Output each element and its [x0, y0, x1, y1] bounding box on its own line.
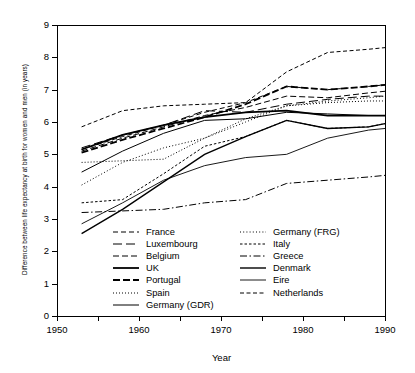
legend-line-swatch-icon [240, 275, 266, 285]
legend-item-label: Portugal [146, 275, 181, 285]
legend-line-swatch-icon [113, 239, 139, 249]
legend-item-uk[interactable]: UK [113, 262, 214, 274]
legend-item-belgium[interactable]: Belgium [113, 250, 214, 262]
legend-item-luxembourg[interactable]: Luxembourg [113, 238, 214, 250]
legend-item-italy[interactable]: Italy [240, 238, 340, 250]
legend-item-spain[interactable]: Spain [113, 286, 214, 298]
legend-item-germany-frg[interactable]: Germany (FRG) [240, 226, 340, 238]
legend-item-label: UK [146, 263, 159, 273]
legend-item-label: Germany (GDR) [146, 300, 214, 310]
legend-item-label: Spain [146, 288, 170, 298]
legend-line-swatch-icon [240, 288, 266, 298]
legend-line-swatch-icon [240, 239, 266, 249]
legend-item-denmark[interactable]: Denmark [240, 262, 340, 274]
series-line-eire [82, 128, 385, 223]
legend-item-label: Italy [273, 239, 290, 249]
legend-line-swatch-icon [113, 227, 139, 237]
legend-item-greece[interactable]: Greece [240, 250, 340, 262]
legend-item-label: Greece [273, 251, 304, 261]
legend-item-france[interactable]: France [113, 226, 214, 238]
legend-line-swatch-icon [240, 227, 266, 237]
legend-item-portugal[interactable]: Portugal [113, 274, 214, 286]
legend-item-eire[interactable]: Eire [240, 274, 340, 286]
legend-line-swatch-icon [113, 263, 139, 273]
legend-item-germany-gdr[interactable]: Germany (GDR) [113, 299, 214, 311]
chart-series-lines [0, 0, 415, 373]
legend-column-right: Germany (FRG)ItalyGreeceDenmarkEireNethe… [240, 226, 340, 299]
legend-column-left: FranceLuxembourgBelgiumUKPortugalSpainGe… [113, 226, 214, 311]
life-expectancy-gap-chart: Difference between life expectancy at bi… [0, 0, 415, 373]
legend-item-netherlands[interactable]: Netherlands [240, 286, 340, 298]
legend-item-label: Denmark [273, 263, 311, 273]
series-line-uk [82, 111, 385, 150]
legend-line-swatch-icon [113, 300, 139, 310]
legend-line-swatch-icon [113, 288, 139, 298]
legend-line-swatch-icon [113, 251, 139, 261]
legend-line-swatch-icon [240, 263, 266, 273]
series-line-luxembourg [82, 96, 385, 148]
legend-line-swatch-icon [113, 275, 139, 285]
legend-item-label: Germany (FRG) [273, 227, 340, 237]
legend-item-label: Eire [273, 275, 290, 285]
legend-item-label: Luxembourg [146, 239, 198, 249]
legend-item-label: France [146, 227, 175, 237]
series-line-italy [82, 120, 385, 202]
legend-item-label: Netherlands [273, 288, 323, 298]
legend-line-swatch-icon [240, 251, 266, 261]
legend-item-label: Belgium [146, 251, 180, 261]
